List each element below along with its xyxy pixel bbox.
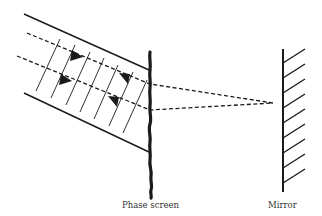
- beam-edges: [24, 14, 149, 152]
- beam-top-edge: [24, 14, 149, 70]
- mirror: [283, 49, 305, 192]
- lower-ray-path: [17, 56, 273, 110]
- phase-screen-mirror-diagram: [0, 0, 322, 216]
- mirror-hatching: [283, 49, 305, 183]
- phase-screen: [149, 52, 151, 198]
- forward-arrows: [59, 50, 83, 85]
- mirror-label: Mirror: [268, 200, 297, 210]
- return-arrows: [108, 73, 130, 107]
- arrow-left-icon: [108, 96, 119, 107]
- beam-bottom-edge: [24, 93, 149, 152]
- dashed-ray-paths: [17, 33, 273, 110]
- phase-screen-label: Phase screen: [122, 200, 179, 210]
